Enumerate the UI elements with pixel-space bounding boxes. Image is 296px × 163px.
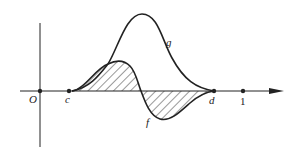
g-label: g xyxy=(166,36,172,48)
one-point xyxy=(241,89,245,93)
d-point xyxy=(212,89,216,93)
origin-point xyxy=(38,89,42,93)
c-label: c xyxy=(65,93,70,105)
one-label: 1 xyxy=(240,95,246,107)
origin-label: O xyxy=(29,93,37,105)
curve-g xyxy=(72,14,214,91)
shaded-region xyxy=(72,61,214,119)
arrow-icon xyxy=(269,88,284,94)
function-graph-diagram: O c d 1 g f xyxy=(0,0,296,163)
d-label: d xyxy=(209,94,215,106)
f-label: f xyxy=(146,116,151,128)
